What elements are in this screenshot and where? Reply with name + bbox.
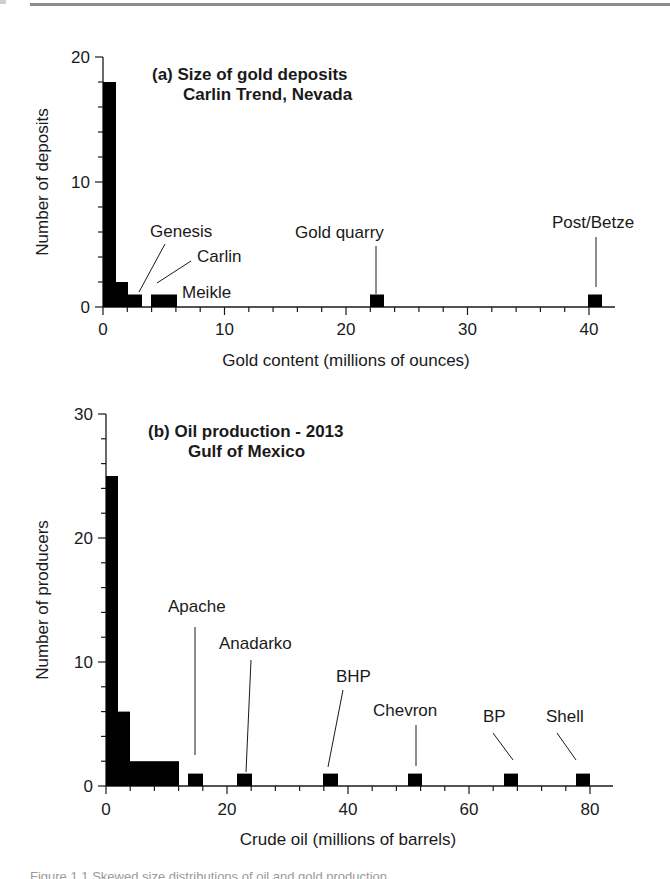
leader-anadarko bbox=[246, 660, 251, 772]
chart-a-xtick-40: 40 bbox=[580, 320, 599, 339]
chart-b-title: (b) Oil production - 2013 bbox=[148, 422, 344, 441]
label-shell: Shell bbox=[546, 707, 584, 726]
chart-a-ytick-10: 10 bbox=[71, 173, 90, 192]
label-genesis: Genesis bbox=[150, 222, 212, 241]
chart-a-xtick-30: 30 bbox=[458, 320, 477, 339]
label-bp: BP bbox=[483, 707, 506, 726]
chart-a-bars bbox=[103, 82, 602, 307]
leader-genesis bbox=[139, 244, 165, 292]
chart-a-y-ticks bbox=[95, 57, 103, 307]
bar bbox=[408, 774, 422, 786]
chart-a-x-ticks bbox=[103, 307, 589, 315]
chart-b-y-ticks bbox=[98, 414, 106, 786]
chart-b-ylabel: Number of producers bbox=[33, 520, 52, 680]
leader-carlin bbox=[157, 261, 191, 283]
chart-a-xtick-10: 10 bbox=[215, 320, 234, 339]
chart-b-xtick-60: 60 bbox=[460, 800, 479, 819]
label-post-betze: Post/Betze bbox=[552, 213, 634, 232]
label-meikle: Meikle bbox=[182, 283, 231, 302]
chart-b-bars bbox=[106, 476, 590, 786]
bar bbox=[588, 295, 602, 308]
chart-b-xtick-20: 20 bbox=[218, 800, 237, 819]
chart-b-xtick-80: 80 bbox=[581, 800, 600, 819]
chart-b-xlabel: Crude oil (millions of barrels) bbox=[240, 830, 456, 849]
label-anadarko: Anadarko bbox=[219, 634, 292, 653]
chart-a-ylabel: Number of deposits bbox=[33, 108, 52, 255]
bar bbox=[128, 295, 142, 308]
chart-b-ytick-30: 30 bbox=[74, 405, 93, 424]
chart-a-xtick-20: 20 bbox=[337, 320, 356, 339]
bar bbox=[151, 295, 177, 308]
chart-a: 20 10 0 Number of deposits bbox=[33, 48, 634, 370]
bar bbox=[130, 761, 179, 786]
label-chevron: Chevron bbox=[373, 701, 437, 720]
chart-a-ytick-20: 20 bbox=[71, 48, 90, 67]
chart-a-title: (a) Size of gold deposits bbox=[152, 65, 348, 84]
chart-a-xlabel: Gold content (millions of ounces) bbox=[222, 351, 470, 370]
leader-shell bbox=[557, 733, 576, 760]
chart-b-subtitle: Gulf of Mexico bbox=[188, 442, 305, 461]
bar bbox=[106, 476, 118, 786]
label-gold-quarry: Gold quarry bbox=[295, 223, 384, 242]
chart-b-xtick-40: 40 bbox=[339, 800, 358, 819]
chart-b-xtick-0: 0 bbox=[101, 800, 110, 819]
chart-b-ytick-0: 0 bbox=[84, 777, 93, 796]
chart-a-ytick-0: 0 bbox=[81, 298, 90, 317]
leader-bp bbox=[493, 733, 513, 760]
chart-b-ytick-10: 10 bbox=[74, 653, 93, 672]
bar bbox=[576, 774, 590, 786]
bar bbox=[237, 774, 252, 786]
bar bbox=[323, 774, 338, 786]
bar bbox=[370, 295, 384, 308]
bar bbox=[118, 712, 130, 786]
chart-a-xtick-0: 0 bbox=[98, 320, 107, 339]
bar bbox=[504, 774, 518, 786]
label-apache: Apache bbox=[168, 597, 226, 616]
figure-caption: Figure 1.1 Skewed size distributions of … bbox=[30, 866, 401, 879]
leader-bhp bbox=[328, 690, 343, 767]
label-bhp: BHP bbox=[336, 667, 371, 686]
chart-b: 30 20 10 0 Number of producers bbox=[33, 405, 613, 849]
label-carlin: Carlin bbox=[197, 247, 241, 266]
chart-a-subtitle: Carlin Trend, Nevada bbox=[183, 85, 353, 104]
bar bbox=[116, 282, 128, 307]
chart-b-ytick-20: 20 bbox=[74, 529, 93, 548]
bar bbox=[103, 82, 116, 307]
bar bbox=[188, 774, 203, 786]
chart-b-x-ticks bbox=[106, 786, 590, 794]
